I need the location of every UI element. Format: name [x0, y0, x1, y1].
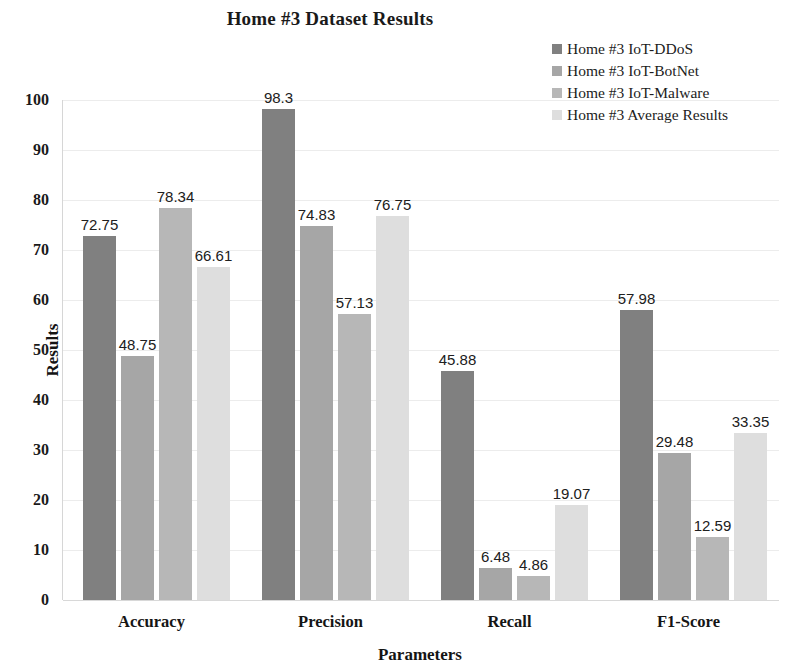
bar-value-label: 12.59 [694, 517, 732, 534]
bar[interactable] [517, 576, 550, 600]
bar-value-label: 4.86 [519, 556, 548, 573]
bar-value-label: 72.75 [81, 216, 119, 233]
bar[interactable] [620, 310, 653, 600]
bar[interactable] [734, 433, 767, 600]
bar[interactable] [376, 216, 409, 600]
bar-value-label: 57.13 [336, 294, 374, 311]
bar-value-label: 29.48 [656, 433, 694, 450]
y-axis-tick-label: 80 [5, 191, 49, 209]
legend-swatch-icon [552, 88, 562, 98]
bar-column: 19.07 [555, 100, 588, 600]
bar[interactable] [197, 267, 230, 600]
y-axis-tick-label: 40 [5, 391, 49, 409]
bar[interactable] [121, 356, 154, 600]
bar-column: 48.75 [121, 100, 154, 600]
legend-item-label: Home #3 IoT-DDoS [567, 40, 693, 58]
bar-value-label: 19.07 [553, 485, 591, 502]
y-axis-tick-label: 100 [5, 91, 49, 109]
bar-group: 57.9829.4812.5933.35 [600, 100, 779, 600]
x-axis-tick-label: F1-Score [657, 612, 720, 632]
bar-column: 6.48 [479, 100, 512, 600]
bar-column: 4.86 [517, 100, 550, 600]
legend-item-label: Home #3 IoT-BotNet [567, 62, 699, 80]
bar-column: 72.75 [83, 100, 116, 600]
bar-column: 98.3 [262, 100, 295, 600]
y-axis-tick-label: 20 [5, 491, 49, 509]
bar[interactable] [555, 505, 588, 600]
bar-value-label: 6.48 [481, 548, 510, 565]
bar-column: 57.98 [620, 100, 653, 600]
y-axis-title: Results [43, 324, 63, 377]
legend-swatch-icon [552, 44, 562, 54]
bar[interactable] [658, 453, 691, 600]
bar-column: 12.59 [696, 100, 729, 600]
bar-column: 57.13 [338, 100, 371, 600]
bar-value-label: 98.3 [264, 89, 293, 106]
bar[interactable] [300, 226, 333, 600]
gridline [63, 600, 779, 601]
bar[interactable] [441, 371, 474, 600]
bar[interactable] [159, 208, 192, 600]
y-axis-tick-label: 50 [5, 341, 49, 359]
plot-area: 0102030405060708090100Results72.7548.757… [62, 100, 779, 600]
y-axis-tick-label: 70 [5, 241, 49, 259]
x-axis-tick-label: Accuracy [118, 612, 185, 632]
bar-value-label: 45.88 [439, 351, 477, 368]
bar[interactable] [696, 537, 729, 600]
bar-group: 72.7548.7578.3466.61 [63, 100, 242, 600]
y-axis-tick-label: 60 [5, 291, 49, 309]
legend-item[interactable]: Home #3 IoT-DDoS [552, 38, 785, 60]
bar[interactable] [479, 568, 512, 600]
y-axis-tick-label: 30 [5, 441, 49, 459]
bar-column: 45.88 [441, 100, 474, 600]
bar-value-label: 66.61 [195, 247, 233, 264]
bar-column: 74.83 [300, 100, 333, 600]
bar-group: 98.374.8357.1376.75 [242, 100, 421, 600]
bar-column: 76.75 [376, 100, 409, 600]
bar[interactable] [262, 109, 295, 601]
bar-column: 66.61 [197, 100, 230, 600]
legend-swatch-icon [552, 66, 562, 76]
y-axis-tick-label: 90 [5, 141, 49, 159]
bar-chart: Home #3 Dataset Results Home #3 IoT-DDoS… [0, 0, 785, 672]
y-axis-tick-label: 10 [5, 541, 49, 559]
bar-value-label: 48.75 [119, 336, 157, 353]
legend-item[interactable]: Home #3 IoT-BotNet [552, 60, 785, 82]
y-axis-tick-label: 0 [5, 591, 49, 609]
bar-value-label: 74.83 [298, 206, 336, 223]
bar-column: 29.48 [658, 100, 691, 600]
x-axis-tick-label: Precision [298, 612, 363, 632]
bar[interactable] [83, 236, 116, 600]
bar-column: 78.34 [159, 100, 192, 600]
bar-value-label: 33.35 [732, 413, 770, 430]
chart-title: Home #3 Dataset Results [0, 8, 660, 30]
bar[interactable] [338, 314, 371, 600]
x-axis-title: Parameters [62, 645, 778, 665]
bar-column: 33.35 [734, 100, 767, 600]
bar-group: 45.886.484.8619.07 [421, 100, 600, 600]
bar-value-label: 78.34 [157, 188, 195, 205]
x-axis-tick-label: Recall [488, 612, 532, 632]
bar-value-label: 76.75 [374, 196, 412, 213]
bar-value-label: 57.98 [618, 290, 656, 307]
